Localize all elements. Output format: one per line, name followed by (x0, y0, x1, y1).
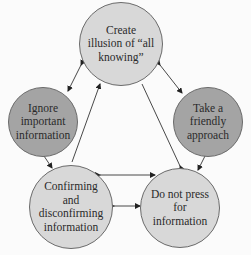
node-take-friendly: Take a friendly approach (173, 87, 243, 157)
node-ignore-important: Ignore important information (8, 87, 78, 157)
node-confirming-disconfirming: Confirming and disconfirming information (29, 165, 113, 249)
node-take-friendly-label: Take a friendly approach (187, 102, 229, 143)
arrow-top-right (160, 65, 182, 93)
node-create-illusion: Create illusion of “all knowing” (79, 2, 163, 86)
node-ignore-important-label: Ignore important information (16, 102, 70, 143)
arrow-top-left (68, 65, 81, 91)
node-do-not-press-label: Do not press for information (151, 188, 209, 229)
arrow-left-bottomleft (44, 156, 52, 168)
node-confirming-disconfirming-label: Confirming and disconfirming information (39, 180, 104, 234)
node-create-illusion-label: Create illusion of “all knowing” (88, 24, 154, 65)
node-do-not-press: Do not press for information (140, 168, 220, 248)
